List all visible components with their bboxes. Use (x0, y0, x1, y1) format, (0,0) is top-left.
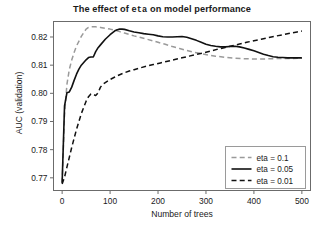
x-axis-ticks: 0100200300400500 (60, 191, 309, 206)
y-axis-ticks: 0.770.780.790.800.810.82 (31, 32, 53, 183)
x-tick-label: 500 (295, 196, 309, 206)
y-tick-label: 0.79 (31, 116, 48, 126)
chart-legend: eta = 0.1eta = 0.05eta = 0.01 (226, 147, 306, 189)
x-tick-label: 100 (103, 196, 117, 206)
legend-label-1: eta = 0.1 (257, 154, 290, 163)
y-tick-label: 0.81 (31, 60, 48, 70)
x-tick-label: 0 (60, 196, 65, 206)
y-tick-label: 0.78 (31, 145, 48, 155)
legend-label-3: eta = 0.01 (257, 177, 294, 186)
x-tick-label: 300 (199, 196, 213, 206)
y-tick-label: 0.80 (31, 88, 48, 98)
x-tick-label: 400 (247, 196, 261, 206)
legend-label-2: eta = 0.05 (257, 165, 294, 174)
y-tick-label: 0.77 (31, 173, 48, 183)
chart-figure: The effect of eta on model performance A… (0, 0, 324, 229)
x-tick-label: 200 (151, 196, 165, 206)
plot-area: 0.770.780.790.800.810.82 010020030040050… (0, 0, 324, 229)
y-tick-label: 0.82 (31, 32, 48, 42)
